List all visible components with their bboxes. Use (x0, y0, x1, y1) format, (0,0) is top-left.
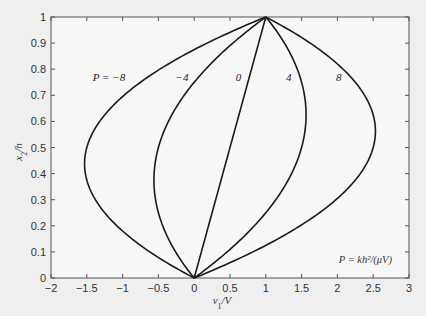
x-tick-label: −0.5 (148, 282, 170, 294)
y-axis-label: x2/h (12, 143, 29, 162)
y-tick-label: 0.6 (31, 115, 46, 127)
y-tick-label: 0.4 (31, 168, 46, 180)
y-tick-label: 0.5 (31, 142, 46, 154)
x-tick-label: 1 (263, 282, 269, 294)
x-tick-label: 1.5 (294, 282, 309, 294)
x-tick-label: −2 (45, 282, 58, 294)
x-axis-label: v1/V (213, 294, 233, 311)
y-tick-label: 0 (40, 272, 46, 284)
x-tick-label: −1.5 (76, 282, 98, 294)
y-tick-label: 0.7 (31, 89, 46, 101)
y-tick-label: 0.3 (31, 194, 46, 206)
x-tick-label: 0 (191, 282, 197, 294)
y-tick-label: 0.9 (31, 37, 46, 49)
curve-label: 8 (336, 71, 342, 83)
x-tick-label: 2 (334, 282, 340, 294)
y-tick-label: 0.8 (31, 63, 46, 75)
curve-label: 4 (286, 71, 292, 83)
x-tick-label: 2.5 (366, 282, 381, 294)
curve-label: P = −8 (92, 71, 126, 83)
x-tick-label: −1 (116, 282, 129, 294)
annotation: P = kh²/(μV) (338, 254, 393, 266)
curve-label: 0 (236, 71, 242, 83)
y-tick-label: 0.2 (31, 220, 46, 232)
y-tick-label: 1 (40, 11, 46, 23)
chart: −2−1.5−1−0.500.511.522.53 00.10.20.30.40… (0, 0, 426, 316)
y-tick-label: 0.1 (31, 246, 46, 258)
curve-label: −4 (176, 71, 189, 83)
x-tick-label: 0.5 (222, 282, 237, 294)
x-tick-label: 3 (406, 282, 412, 294)
